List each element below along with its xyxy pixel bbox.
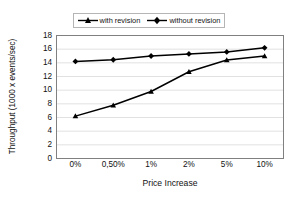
x-axis-tick-label: 1% (145, 160, 157, 169)
x-axis-title: Price Increase (56, 178, 284, 188)
chart-container: with revision without revision Throughpu… (0, 0, 297, 199)
x-axis-tick-label: 0,50% (102, 160, 125, 169)
x-axis-tick-label: 2% (183, 160, 195, 169)
plot-area (0, 0, 297, 199)
x-axis-tick-label: 0% (69, 160, 81, 169)
plot-background (57, 36, 284, 159)
x-axis-tick-label: 10% (256, 160, 272, 169)
x-axis-tick-label: 5% (221, 160, 233, 169)
